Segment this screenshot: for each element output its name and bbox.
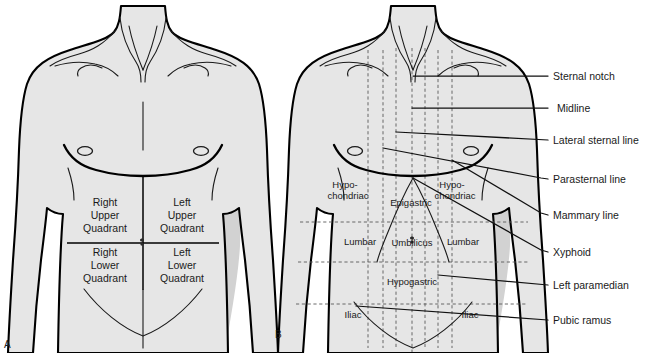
rlq-line-1: Right: [93, 246, 118, 258]
panel-letter-a: A: [4, 339, 11, 350]
llq-line-3: Quadrant: [160, 272, 204, 284]
label-iliac-right: Iliac: [345, 309, 362, 320]
luq-line-3: Quadrant: [160, 222, 204, 234]
label-lumbar-left: Lumbar: [447, 236, 479, 247]
callout-xyphoid: Xyphoid: [553, 246, 591, 258]
rlq-line-3: Quadrant: [83, 272, 127, 284]
hypochondriac-left-line-1: Hypo-: [439, 179, 464, 190]
callout-midline: Midline: [557, 102, 590, 114]
llq-line-2: Lower: [168, 259, 197, 271]
panel-b-torso: [278, 6, 548, 353]
anatomy-figure: Right Upper Quadrant Left Upper Quadrant…: [0, 0, 645, 353]
callout-lateral-sternal-line: Lateral sternal line: [553, 134, 639, 146]
luq-line-2: Upper: [168, 209, 197, 221]
callout-pubic-ramus: Pubic ramus: [553, 314, 611, 326]
callout-parasternal-line: Parasternal line: [553, 173, 626, 185]
label-epigastric: Epigastric: [390, 197, 432, 208]
panel-letter-b: B: [275, 329, 282, 340]
llq-line-1: Left: [173, 246, 191, 258]
ruq-line-2: Upper: [91, 209, 120, 221]
panel-b-callout-labels: Sternal notch Midline Lateral sternal li…: [553, 70, 639, 326]
ruq-line-1: Right: [93, 196, 118, 208]
callout-mammary-line: Mammary line: [553, 209, 619, 221]
label-umbilicus: Umbilicus: [391, 237, 432, 248]
callout-left-paramedian: Left paramedian: [553, 279, 629, 291]
hypochondriac-right-line-1: Hypo-: [332, 179, 357, 190]
rlq-line-2: Lower: [91, 259, 120, 271]
callout-sternal-notch: Sternal notch: [553, 70, 615, 82]
ruq-line-3: Quadrant: [83, 222, 127, 234]
panel-a: Right Upper Quadrant Left Upper Quadrant…: [4, 6, 278, 353]
hypochondriac-right-line-2: chondriac: [327, 190, 368, 201]
panel-b: Hypo- chondriac Hypo- chondriac Epigastr…: [275, 6, 639, 353]
hypochondriac-left-line-2: chondriac: [434, 190, 475, 201]
label-lumbar-right: Lumbar: [344, 236, 376, 247]
luq-line-1: Left: [173, 196, 191, 208]
label-hypogastric: Hypogastric: [387, 276, 437, 287]
